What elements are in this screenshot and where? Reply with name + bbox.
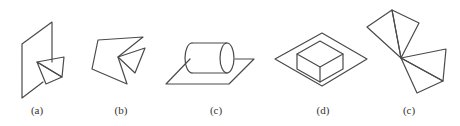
panel-e-triangle-3 [401, 49, 446, 81]
panel-a-triangle-lower [37, 62, 62, 84]
panel-a-label: (a) [31, 104, 43, 116]
panel-e-drawing [367, 10, 446, 93]
panel-b-drawing [92, 37, 145, 84]
panel-c-cylinder-left-end [185, 43, 192, 73]
panel-d-label: (d) [317, 104, 330, 116]
panel-a-drawing [22, 22, 64, 98]
panel-b-label: (b) [115, 104, 128, 116]
panel-e-triangle-2 [392, 10, 419, 58]
panel-c-drawing [166, 43, 254, 84]
panel-d-box-top [297, 41, 343, 67]
panel-d-drawing [275, 33, 367, 86]
panel-c-label: (c) [210, 104, 222, 116]
figure-canvas [0, 0, 460, 126]
panel-e-triangle-4 [401, 58, 443, 93]
panel-e-label: (c) [403, 104, 415, 116]
panel-c-plane [166, 59, 254, 84]
panel-a-triangle-upper [37, 57, 64, 77]
panel-c-cylinder-right-end [220, 43, 234, 73]
panel-b-polygon [92, 37, 143, 84]
